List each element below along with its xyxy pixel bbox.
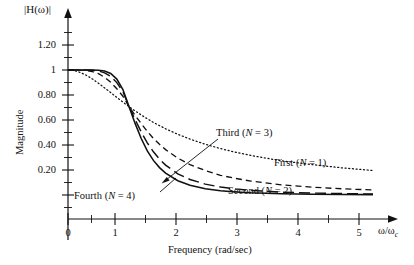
third-leader-arrow (162, 139, 219, 184)
y-tick-label-0-20: 0.20 (22, 165, 56, 176)
vertical-axis-symbol: |H(ω)| (24, 4, 51, 15)
first-label-post: = 1) (306, 157, 326, 168)
x-tick-label-1: 1 (105, 228, 125, 239)
second-label-pre: Second ( (228, 185, 265, 196)
first-label-pre: First ( (274, 157, 299, 168)
second-label-n: N (265, 185, 272, 196)
x-axis-title: Frequency (rad/sec) (168, 245, 252, 256)
y-tick-label-1: 1 (22, 65, 56, 76)
x-tick-label-2: 2 (166, 228, 186, 239)
x-axis-arrowhead (388, 215, 398, 223)
x-axis-symbol-base: ω/ω (378, 225, 395, 236)
curve-annotation-fourth: Fourth (N = 4) (74, 191, 135, 202)
third-label-pre: Third ( (216, 127, 245, 138)
y-tick-label-1-20: 1.20 (22, 40, 56, 51)
y-tick-label-0-80: 0.80 (22, 90, 56, 101)
x-axis-symbol-subscript: c (395, 230, 398, 239)
axes-group (64, 8, 398, 240)
chart-canvas (0, 0, 414, 265)
x-tick-label-5: 5 (349, 228, 369, 239)
x-tick-label-3: 3 (227, 228, 247, 239)
fourth-label-post: = 4) (115, 190, 135, 201)
x-tick-label-4: 4 (288, 228, 308, 239)
y-tick-label-0-60: 0.60 (22, 115, 56, 126)
butterworth-magnitude-chart: |H(ω)| Magnitude 1.20 1 0.80 0.60 0.40 0… (0, 0, 414, 265)
x-tick-label-0: 0 (58, 228, 78, 239)
third-label-post: = 3) (252, 127, 272, 138)
curve-annotation-third: Third (N = 3) (216, 128, 272, 139)
x-axis-symbol: ω/ωc (378, 226, 398, 239)
y-axis-arrowhead (64, 8, 72, 18)
fourth-label-pre: Fourth ( (74, 190, 108, 201)
curve-annotation-first: First (N = 1) (274, 158, 326, 169)
y-tick-label-0-40: 0.40 (22, 140, 56, 151)
curve-annotation-second: Second (N = 2) (228, 186, 292, 197)
second-label-post: = 2) (272, 185, 292, 196)
